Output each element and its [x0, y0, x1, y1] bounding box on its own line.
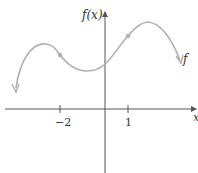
- tick-label-1: 1: [125, 116, 132, 129]
- curve-f: [16, 22, 180, 88]
- point-at-minus-2: [58, 53, 62, 57]
- curve-left-arrow-icon: [12, 84, 19, 92]
- tick-label-minus-2: −2: [55, 116, 71, 129]
- point-at-1: [126, 34, 130, 38]
- function-graph: f(x) f x −2 1: [0, 0, 198, 173]
- curve-label: f: [182, 52, 190, 66]
- y-axis-label: f(x): [81, 8, 103, 22]
- x-axis-label: x: [193, 111, 198, 124]
